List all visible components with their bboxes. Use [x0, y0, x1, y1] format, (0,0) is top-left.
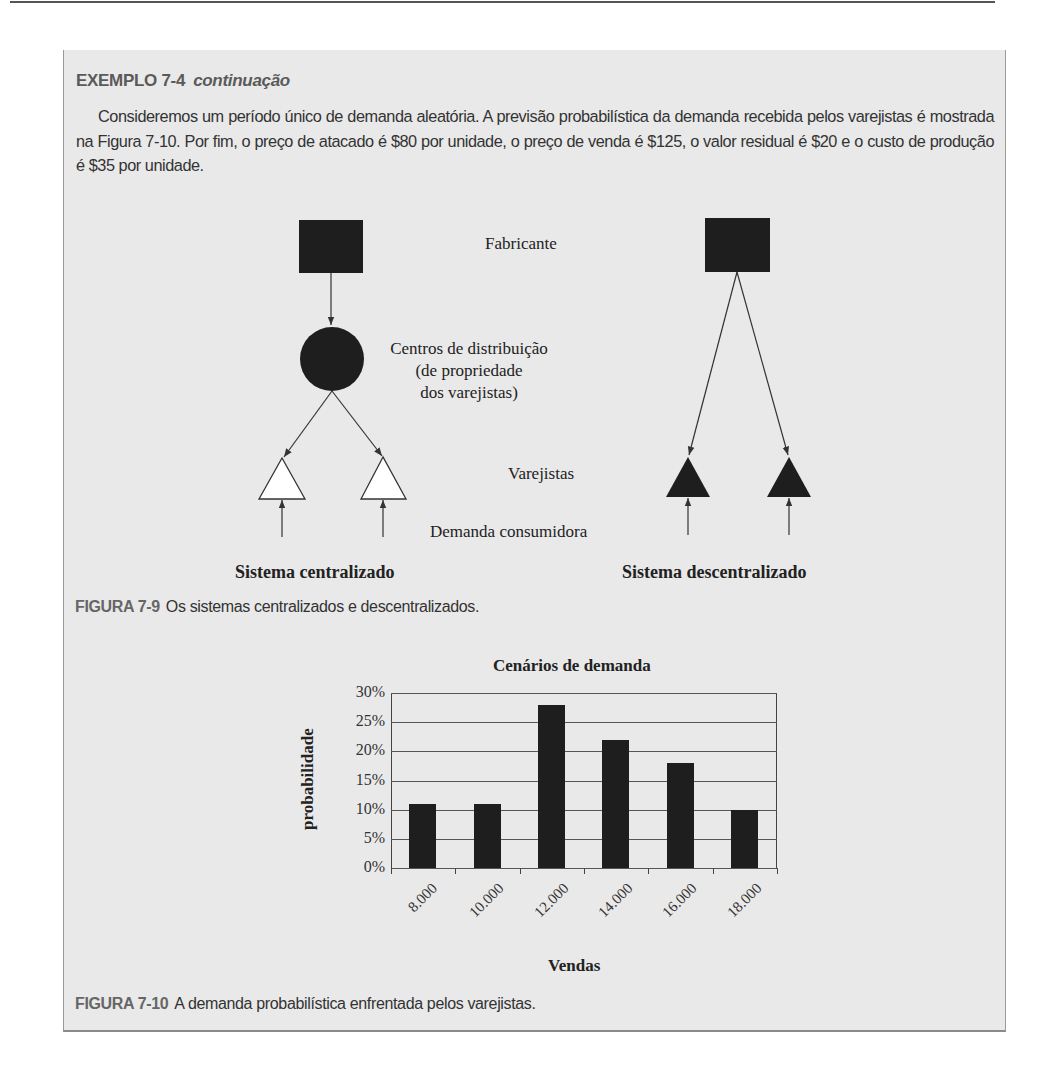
chart-x-tick-mark	[391, 868, 392, 874]
chart-bar	[409, 804, 436, 868]
chart-x-tick-mark	[648, 868, 649, 874]
chart-gridline	[391, 839, 777, 840]
chart-bar	[538, 705, 565, 868]
figure-7-10-caption-text: A demanda probabilística enfrentada pelo…	[174, 995, 535, 1012]
figure-7-9-diagram	[0, 0, 1059, 1086]
arrow-manufacturer-to-retailer-1	[689, 272, 737, 455]
arrow-manufacturer-to-retailer-2	[737, 272, 788, 455]
chart-bar	[474, 804, 501, 868]
label-manufacturer: Fabricante	[485, 234, 557, 254]
chart-y-tick-label: 0%	[335, 858, 385, 876]
label-consumer-demand: Demanda consumidora	[430, 522, 587, 542]
retailer-triangle-outline-2	[361, 457, 406, 499]
chart-x-tick-mark	[584, 868, 585, 874]
figure-7-9-caption: FIGURA 7-9Os sistemas centralizados e de…	[75, 598, 479, 616]
chart-gridline	[391, 751, 777, 752]
distribution-center-circle	[300, 327, 364, 391]
manufacturer-square-decentralized	[705, 218, 770, 272]
chart-bar	[731, 810, 758, 868]
chart-plot-area	[391, 693, 777, 868]
chart-x-axis-label: Vendas	[548, 956, 600, 976]
chart-y-axis-label: probabilidade	[298, 728, 318, 830]
figure-7-9-caption-text: Os sistemas centralizados e descentraliz…	[166, 598, 479, 615]
label-retailers: Varejistas	[508, 464, 574, 484]
chart-gridline	[391, 693, 777, 694]
chart-y-tick-label: 10%	[335, 800, 385, 818]
label-dc-line3: dos varejistas)	[369, 382, 569, 404]
retailer-triangle-outline-1	[259, 458, 305, 499]
chart-y-tick-label: 25%	[335, 712, 385, 730]
chart-gridline	[391, 781, 777, 782]
manufacturer-square-centralized	[299, 220, 363, 273]
chart-gridline	[391, 810, 777, 811]
figure-7-9-number: FIGURA 7-9	[75, 598, 160, 615]
figure-7-10-caption: FIGURA 7-10A demanda probabilística enfr…	[75, 995, 536, 1013]
retailer-triangle-filled-2	[767, 457, 811, 497]
chart-y-tick-label: 20%	[335, 741, 385, 759]
chart-y-tick-label: 15%	[335, 771, 385, 789]
label-distribution-centers: Centros de distribuição (de propriedade …	[369, 338, 569, 404]
chart-y-tick-label: 30%	[335, 683, 385, 701]
figure-7-10-number: FIGURA 7-10	[75, 995, 168, 1012]
label-dc-line2: (de propriedade	[369, 360, 569, 382]
chart-x-tick-mark	[713, 868, 714, 874]
chart-bar	[667, 763, 694, 868]
title-centralized-system: Sistema centralizado	[235, 562, 394, 583]
chart-y-tick-label: 5%	[335, 829, 385, 847]
chart-gridline	[391, 722, 777, 723]
chart-x-tick-mark	[455, 868, 456, 874]
arrow-dc-to-retailer-1	[284, 391, 332, 457]
chart-title: Cenários de demanda	[493, 656, 651, 676]
chart-x-tick-mark	[520, 868, 521, 874]
chart-bar	[602, 740, 629, 868]
label-dc-line1: Centros de distribuição	[369, 338, 569, 360]
title-decentralized-system: Sistema descentralizado	[622, 562, 806, 583]
chart-x-tick-mark	[777, 868, 778, 874]
retailer-triangle-filled-1	[666, 457, 710, 497]
